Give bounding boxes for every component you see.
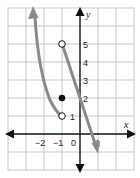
x-axis-label: x bbox=[123, 119, 129, 130]
y-tick-2: 2 bbox=[83, 94, 88, 104]
x-tick-neg2: −2 bbox=[35, 138, 45, 148]
closed-point-neg1-2 bbox=[59, 95, 66, 102]
y-axis-label: y bbox=[85, 9, 91, 20]
right-line bbox=[64, 48, 101, 154]
y-axis-down-arrow-icon bbox=[76, 164, 85, 173]
function-graph: y x 5 4 3 2 1 −2 −1 0 1 bbox=[0, 0, 140, 178]
y-tick-4: 4 bbox=[83, 58, 88, 68]
y-tick-1: 1 bbox=[70, 112, 75, 122]
y-tick-5: 5 bbox=[83, 40, 88, 50]
x-tick-0: 0 bbox=[71, 138, 76, 148]
x-tick-neg1: −1 bbox=[53, 138, 63, 148]
open-circle-point-neg1-5 bbox=[59, 41, 66, 48]
x-axis-right-arrow-icon bbox=[127, 130, 136, 139]
open-circle-point-neg1-1 bbox=[59, 113, 66, 120]
x-axis-left-arrow-icon bbox=[5, 130, 14, 139]
y-tick-3: 3 bbox=[83, 76, 88, 86]
